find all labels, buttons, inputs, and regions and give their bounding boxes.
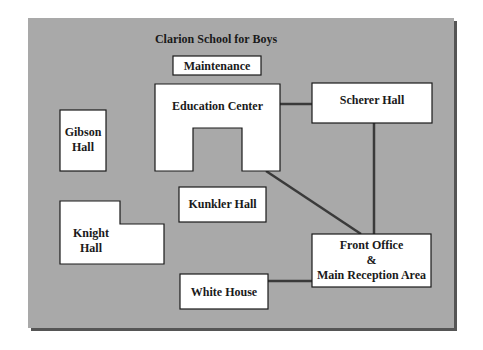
label-gibson-hall-line2: Hall: [60, 140, 106, 154]
label-white-house: White House: [180, 285, 268, 299]
label-kunkler-hall: Kunkler Hall: [179, 197, 266, 211]
label-knight-hall-line1: Knight: [66, 226, 116, 240]
map-title: Clarion School for Boys: [140, 32, 292, 46]
label-maintenance: Maintenance: [173, 59, 261, 73]
campus-map: Clarion School for Boys Maintenance Educ…: [0, 0, 483, 350]
label-front-office-line1: Front Office: [312, 238, 431, 252]
label-gibson-hall-line1: Gibson: [60, 125, 106, 139]
label-front-office-line3: Main Reception Area: [312, 268, 431, 282]
label-front-office-line2: &: [312, 253, 431, 267]
label-scherer-hall: Scherer Hall: [312, 93, 432, 107]
label-education-center: Education Center: [155, 99, 280, 113]
label-knight-hall-line2: Hall: [66, 241, 116, 255]
